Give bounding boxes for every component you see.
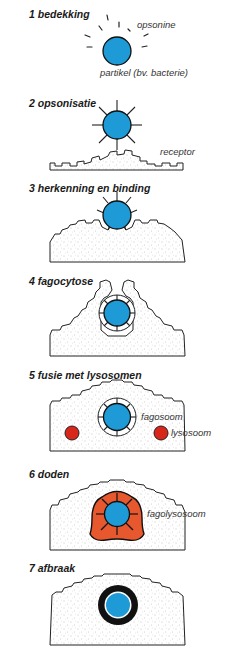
label-receptor: receptor: [160, 146, 195, 157]
lysosome-left-icon: [65, 426, 79, 440]
label-fagosoom: fagosoom: [141, 411, 183, 422]
step-7-illustration: [0, 550, 225, 659]
label-particle: partikel (bv. bacterie): [100, 67, 188, 78]
particle-icon: [103, 37, 131, 65]
phagosome-particle-icon: [104, 404, 131, 431]
step-4-illustration: [0, 260, 225, 360]
step-3-illustration: [0, 170, 225, 265]
step-6-illustration: [0, 450, 225, 560]
engulfed-particle-icon: [104, 300, 130, 326]
label-fagolysosoom: fagolysosoom: [147, 508, 206, 519]
bound-particle-icon: [103, 201, 131, 229]
step-5-illustration: [0, 355, 225, 455]
lysosome-right-icon: [154, 426, 168, 440]
step-2-illustration: [0, 90, 225, 175]
degraded-particle-icon: [106, 593, 130, 617]
label-opsonine: opsonine: [137, 19, 176, 30]
killed-particle-icon: [105, 502, 130, 527]
label-lysosoom: lysosoom: [171, 427, 211, 438]
